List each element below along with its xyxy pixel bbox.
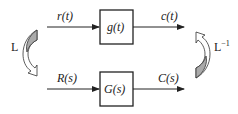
input-label-r-t: r(t) [57, 9, 73, 23]
block-label-G-s: G(s) [104, 82, 125, 96]
laplace-transform-arrow-icon: L [11, 30, 37, 76]
inverse-laplace-label: L−1 [214, 39, 230, 54]
block-label-g-t: g(t) [107, 20, 124, 34]
output-label-C-s: C(s) [158, 71, 179, 85]
output-label-c-t: c(t) [161, 9, 178, 23]
time-domain-row: r(t) g(t) c(t) [47, 9, 184, 44]
laplace-label: L [11, 40, 18, 54]
inverse-laplace-transform-arrow-icon: L−1 [196, 32, 230, 78]
s-domain-row: R(s) G(s) C(s) [47, 71, 184, 106]
laplace-transform-diagram: r(t) g(t) c(t) R(s) G(s) C(s) L L−1 [0, 0, 238, 114]
input-label-R-s: R(s) [56, 71, 77, 85]
